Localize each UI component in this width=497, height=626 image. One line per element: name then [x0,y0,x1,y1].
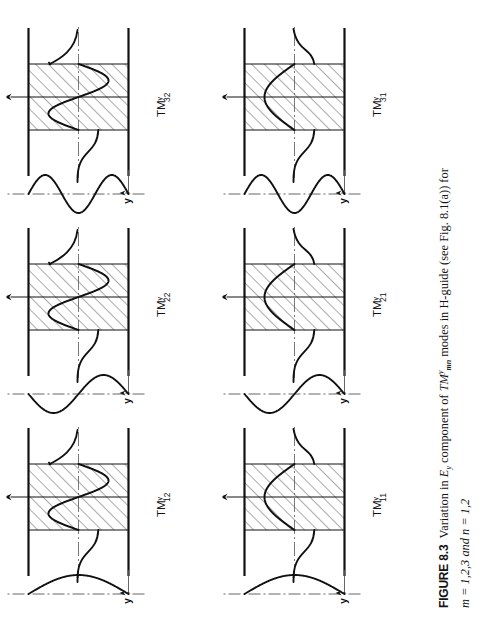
mode-label-tm11: TMy11 [370,488,386,517]
mode-label-tm32: TMy32 [154,87,170,117]
mode-label-base: TM [155,500,167,517]
caption-symbol-TM-superscript: y [435,371,444,375]
y-axis-label: y [337,398,348,404]
mode-label-subscript: 21 [377,292,387,301]
y-axis-label: y [121,398,132,404]
mode-panel-tm21: xxyTMy21 [222,218,418,414]
mode-label-base: TM [371,300,383,317]
mode-label-tm31: TMy31 [370,87,386,117]
mode-label-subscript: 11 [377,493,387,502]
mode-panel-tm11: xxyTMy11 [222,418,418,614]
caption-figure-number: FIGURE 8.3 [436,545,450,608]
y-axis-label: y [337,598,348,604]
y-axis-label: y [337,198,348,204]
caption-symbol-TM-subscript: mn [444,360,453,371]
caption-symbol-TM: TM [436,374,450,391]
figure-caption: FIGURE 8.3 Variation in Ey component of … [434,8,474,608]
mode-label-base: TM [155,300,167,317]
figure-plot-area: xxyTMy12xxyTMy22xxyTMy32xxyTMy11xxyTMy21… [0,0,430,626]
mode-panel-tm32: xxyTMy32 [6,18,202,214]
caption-text-variation: Variation in [436,480,450,538]
mode-label-tm22: TMy22 [154,287,170,317]
mode-label-base: TM [371,100,383,117]
y-axis-label: y [121,598,132,604]
y-axis-label: y [121,198,132,204]
caption-text-ranges: m = 1,2,3 and n = 1,2 [457,499,471,608]
mode-label-base: TM [155,100,167,117]
mode-label-subscript: 12 [161,492,171,501]
mode-label-tm12: TMy12 [154,487,170,517]
mode-label-subscript: 22 [161,292,171,301]
caption-text-tail: modes in H-guide (see Fig. 8.1(a)) for [436,168,450,357]
mode-label-tm21: TMy21 [370,287,386,317]
caption-symbol-E: E [436,470,450,478]
mode-panel-tm31: xxyTMy31 [222,18,418,214]
caption-text-component: component of [436,394,450,462]
figure-page: xxyTMy12xxyTMy22xxyTMy32xxyTMy11xxyTMy21… [0,0,497,626]
mode-label-subscript: 31 [377,92,387,101]
mode-label-subscript: 32 [161,92,171,101]
caption-symbol-E-subscript: y [444,466,453,470]
mode-panel-tm12: xxyTMy12 [6,418,202,614]
mode-panel-tm22: xxyTMy22 [6,218,202,414]
mode-label-base: TM [371,500,383,517]
